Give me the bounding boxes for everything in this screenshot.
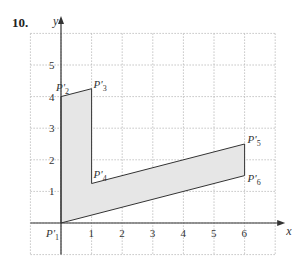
y-tick-label: 4 — [49, 91, 55, 103]
point-label: P'5 — [247, 133, 261, 148]
x-tick-label: 4 — [180, 227, 186, 239]
y-tick-label: 3 — [49, 122, 55, 134]
coordinate-plot: xy1234561234510.P'1P'2P'3P'4P'5P'6 — [0, 0, 302, 262]
x-tick-label: 1 — [89, 227, 95, 239]
x-tick-label: 2 — [119, 227, 125, 239]
point-label: P'2 — [55, 81, 69, 96]
point-label: P'3 — [93, 78, 107, 93]
point-label: P'6 — [247, 172, 261, 187]
x-axis-label: x — [285, 224, 292, 238]
y-tick-label: 2 — [49, 154, 55, 166]
y-tick-label: 5 — [49, 59, 55, 71]
point-label: P'1 — [45, 227, 59, 242]
x-tick-label: 3 — [150, 227, 156, 239]
y-axis-label: y — [52, 14, 59, 28]
x-axis-arrow-icon — [277, 220, 285, 226]
figure: xy1234561234510.P'1P'2P'3P'4P'5P'6 — [0, 0, 302, 262]
y-tick-label: 1 — [49, 185, 55, 197]
y-axis-arrow-icon — [58, 16, 64, 24]
point-label: P'4 — [93, 168, 107, 183]
x-tick-label: 5 — [211, 227, 217, 239]
problem-number: 10. — [12, 15, 28, 30]
x-tick-label: 6 — [242, 227, 248, 239]
